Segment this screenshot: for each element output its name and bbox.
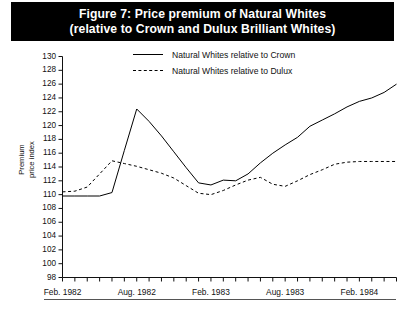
x-axis-tick-label: Feb. 1984 — [326, 287, 392, 297]
y-axis-tick-label: 124 — [30, 94, 56, 102]
y-axis-tick-label: 122 — [30, 108, 56, 116]
y-axis-tick-label: 106 — [30, 218, 56, 226]
y-axis-tick-label: 108 — [30, 204, 56, 212]
figure-container: Figure 7: Price premium of Natural White… — [0, 0, 405, 313]
y-axis-tick-label: 114 — [30, 163, 56, 171]
x-axis-tick-label: Feb. 1983 — [178, 287, 244, 297]
y-axis-tick-label: 102 — [30, 246, 56, 254]
x-axis-tick-label: Aug. 1983 — [252, 287, 318, 297]
y-axis-tick-label: 128 — [30, 66, 56, 74]
y-axis-tick-label: 116 — [30, 149, 56, 157]
chart-svg — [0, 41, 405, 293]
plot-area — [0, 41, 405, 293]
data-series-layer — [63, 84, 397, 196]
y-axis-tick-label: 118 — [30, 135, 56, 143]
y-axis-tick-label: 130 — [30, 53, 56, 61]
y-axis-tick-label: 112 — [30, 177, 56, 185]
y-axis-tick-label: 126 — [30, 80, 56, 88]
figure-title-banner: Figure 7: Price premium of Natural White… — [11, 2, 394, 41]
x-axis-ticks — [63, 278, 397, 282]
y-axis-tick-label: 100 — [30, 260, 56, 268]
bottom-divider — [44, 299, 396, 300]
y-axis-tick-label: 110 — [30, 191, 56, 199]
figure-title-line-2: (relative to Crown and Dulux Brilliant W… — [70, 22, 336, 37]
axis-lines — [63, 57, 397, 278]
figure-title-line-1: Figure 7: Price premium of Natural White… — [79, 7, 326, 22]
x-axis-tick-label: Aug. 1982 — [104, 287, 170, 297]
y-axis-tick-label: 104 — [30, 232, 56, 240]
y-axis-tick-label: 98 — [30, 274, 56, 282]
y-axis-tick-label: 120 — [30, 122, 56, 130]
y-axis-ticks — [59, 57, 63, 278]
x-axis-tick-label: Feb. 1982 — [30, 287, 96, 297]
series-line-crown — [63, 84, 397, 196]
